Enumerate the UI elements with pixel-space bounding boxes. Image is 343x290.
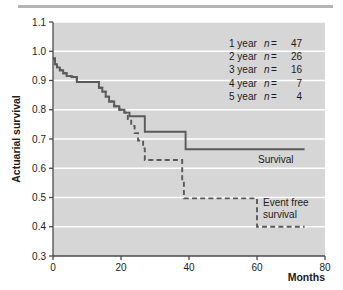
y-tick-label: 0.6 (32, 163, 46, 174)
event-free-survival-label-line1: Event free (263, 197, 309, 208)
y-tick-label: 0.8 (32, 104, 46, 115)
risk-table-equals: = (271, 91, 277, 102)
risk-table-equals: = (271, 78, 277, 89)
y-axis-tick-labels: 0.30.40.50.60.70.80.91.01.1 (32, 17, 46, 262)
x-tick-label: 0 (50, 262, 56, 273)
risk-table-n-symbol: n (264, 64, 270, 75)
risk-table-year: 3 year (229, 64, 257, 75)
risk-table-n-symbol: n (264, 38, 270, 49)
risk-table-n-symbol: n (264, 51, 270, 62)
y-tick-label: 1.0 (32, 46, 46, 57)
risk-table-equals: = (271, 64, 277, 75)
survival-curve-label: Survival (258, 154, 294, 165)
risk-table-value: 26 (291, 51, 303, 62)
x-tick-label: 60 (251, 262, 263, 273)
risk-table-year: 5 year (229, 91, 257, 102)
figure-container: 0.30.40.50.60.70.80.91.01.1 020406080 1 … (0, 0, 343, 290)
risk-table-year: 2 year (229, 51, 257, 62)
x-axis-title: Months (288, 271, 325, 283)
header-rule (18, 5, 333, 8)
event-free-survival-label-line2: survival (263, 209, 297, 220)
risk-table-year: 4 year (229, 78, 257, 89)
y-axis-title: Actuarial survival (10, 95, 22, 183)
x-tick-label: 20 (115, 262, 127, 273)
risk-table-equals: = (271, 51, 277, 62)
y-tick-label: 1.1 (32, 17, 46, 28)
risk-table-value: 4 (296, 91, 302, 102)
x-tick-label: 40 (183, 262, 195, 273)
risk-table-equals: = (271, 38, 277, 49)
risk-table-year: 1 year (229, 38, 257, 49)
y-tick-label: 0.7 (32, 134, 46, 145)
y-tick-label: 0.4 (32, 221, 46, 232)
risk-table-value: 7 (296, 78, 302, 89)
y-tick-label: 0.5 (32, 192, 46, 203)
survival-curve-chart: 0.30.40.50.60.70.80.91.01.1 020406080 1 … (0, 0, 343, 290)
risk-table-value: 16 (291, 64, 303, 75)
risk-table-value: 47 (291, 38, 303, 49)
risk-table-n-symbol: n (264, 91, 270, 102)
risk-table-n-symbol: n (264, 78, 270, 89)
y-tick-label: 0.9 (32, 75, 46, 86)
y-tick-label: 0.3 (32, 251, 46, 262)
